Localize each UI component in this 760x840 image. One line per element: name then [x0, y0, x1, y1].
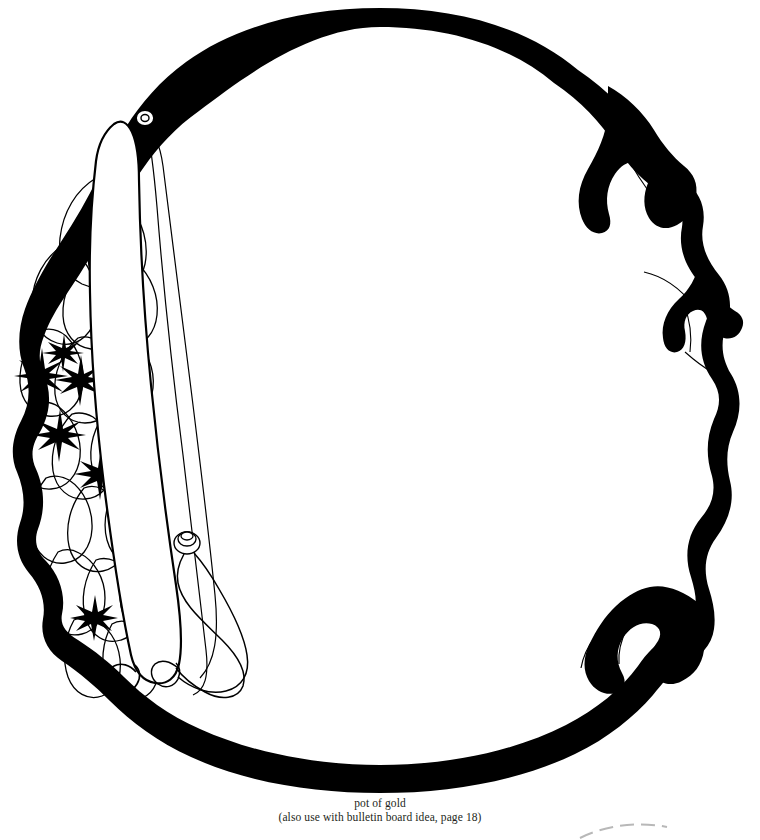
pot-of-gold-illustration: [0, 0, 760, 800]
sparkle-star: [42, 334, 84, 372]
caption-title: pot of gold: [0, 797, 760, 811]
pot-of-gold-svg: [0, 0, 760, 800]
caption: pot of gold (also use with bulletin boar…: [0, 797, 760, 824]
caption-subtitle: (also use with bulletin board idea, page…: [0, 811, 760, 825]
right-middle-lobe: [644, 262, 743, 372]
artboard: pot of gold (also use with bulletin boar…: [0, 0, 760, 840]
hook-knob: [174, 532, 200, 554]
